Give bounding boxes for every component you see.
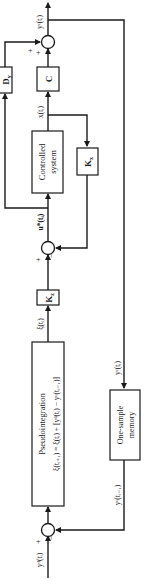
yd-input-label: yᵈ(tᵢ): [35, 552, 44, 567]
xi-label: ξ(tᵢ): [36, 318, 45, 330]
controlled-system-line1: Controlled: [37, 143, 47, 180]
bottom-sum-sign-plus: +: [36, 537, 41, 546]
yc-memory-output-label: yᶜ(tᵢ₋₁): [113, 484, 122, 505]
c-label: C: [44, 76, 54, 83]
memory-line1: One-sample: [116, 405, 125, 444]
u-star-label: u*(tᵢ): [36, 213, 45, 230]
bottom-summing-junction: [42, 524, 55, 537]
top-sum-sign-2: +: [36, 48, 41, 57]
memory-line2: memory: [127, 412, 136, 439]
top-sum-sign-1: +: [28, 46, 33, 55]
block-diagram: Dy C Controlled system Kx Kz Pseudointeg…: [0, 0, 146, 580]
pseudointegration-title: Pseudointegration: [37, 393, 47, 455]
controlled-system-line2: system: [48, 150, 58, 174]
yc-output-label: yᶜ(tᵢ): [35, 15, 44, 29]
x-state-label: x(tᵢ): [36, 105, 45, 118]
mid-sum-sign-minus: −: [47, 253, 56, 258]
pseudointegration-equation: ξ(tᵢ₊₁) = ξ(tᵢ) + [yᵈ(tᵢ) − yᶜ(tᵢ₋₁)]: [52, 377, 61, 471]
mid-summing-junction: [42, 242, 55, 255]
top-summing-junction: [42, 36, 55, 49]
bottom-sum-sign-minus: −: [47, 535, 56, 540]
mid-sum-sign-plus: +: [36, 255, 41, 264]
yc-memory-input-label: yᶜ(tᵢ): [113, 361, 122, 375]
